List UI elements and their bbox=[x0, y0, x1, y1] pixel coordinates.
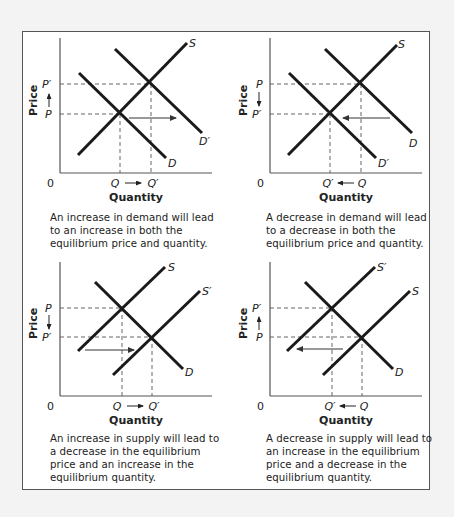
price-label-upper: P′ bbox=[252, 302, 262, 315]
panel-demand-increase: S D′ D P′ P Price 0 Q Q′ Quantity bbox=[27, 37, 212, 204]
supply-curve-s bbox=[78, 43, 187, 155]
price-label-upper: P′ bbox=[42, 78, 52, 91]
supply-curve-s bbox=[288, 45, 397, 155]
y-axis-title: Price bbox=[237, 308, 250, 339]
curve-label-s: S bbox=[168, 261, 175, 274]
curve-label-s: S bbox=[189, 37, 196, 50]
qty-label-right: Q′ bbox=[148, 400, 160, 413]
origin-label: 0 bbox=[47, 177, 54, 190]
y-axis-title: Price bbox=[27, 85, 40, 116]
qty-label-left: Q′ bbox=[324, 400, 336, 413]
price-label-upper: P bbox=[45, 302, 52, 315]
qty-label-left: Q bbox=[113, 400, 122, 413]
panel-supply-decrease: S′ S D P′ P Price 0 Q′ Q Quantity bbox=[237, 261, 422, 427]
y-axis-title: Price bbox=[27, 308, 40, 339]
curve-label-d: D bbox=[395, 366, 403, 379]
caption-supply-decrease: A decrease in supply will lead to an inc… bbox=[266, 432, 446, 484]
curve-label-s-prime: S′ bbox=[377, 261, 387, 274]
qty-label-right: Q′ bbox=[147, 177, 159, 190]
curve-label-d-prime: D′ bbox=[378, 157, 389, 170]
curve-label-d-prime: D′ bbox=[199, 135, 210, 148]
price-label-upper: P bbox=[256, 78, 263, 91]
curve-label-s: S bbox=[412, 285, 419, 298]
price-label-lower: P bbox=[256, 331, 263, 344]
curve-label-d: D bbox=[185, 366, 193, 379]
demand-curve-d bbox=[305, 282, 393, 369]
price-label-lower: P bbox=[45, 108, 52, 121]
panel-demand-decrease: S D D′ P P′ Price 0 Q′ Q Quantity bbox=[237, 38, 422, 204]
demand-curve-d bbox=[95, 282, 183, 369]
caption-demand-increase: An increase in demand will lead to an in… bbox=[50, 211, 230, 250]
qty-label-right: Q bbox=[360, 400, 369, 413]
x-axis-title: Quantity bbox=[319, 414, 373, 427]
price-label-lower: P′ bbox=[252, 108, 262, 121]
caption-demand-decrease: A decrease in demand will lead to a decr… bbox=[266, 211, 446, 250]
caption-supply-increase: An increase in supply will lead to a dec… bbox=[50, 432, 230, 484]
x-axis-title: Quantity bbox=[109, 191, 163, 204]
curve-label-s: S bbox=[398, 38, 405, 51]
qty-label-left: Q bbox=[111, 177, 120, 190]
price-label-lower: P′ bbox=[42, 331, 52, 344]
qty-label-left: Q′ bbox=[322, 177, 334, 190]
x-axis-title: Quantity bbox=[319, 191, 373, 204]
qty-label-right: Q bbox=[358, 177, 367, 190]
curve-label-d: D bbox=[409, 137, 417, 150]
origin-label: 0 bbox=[257, 177, 264, 190]
panel-supply-increase: S S′ D P P′ Price 0 Q Q′ Quantity bbox=[27, 261, 212, 427]
curve-label-d: D bbox=[168, 157, 176, 170]
y-axis-title: Price bbox=[237, 85, 250, 116]
x-axis-title: Quantity bbox=[109, 414, 163, 427]
origin-label: 0 bbox=[257, 400, 264, 413]
origin-label: 0 bbox=[47, 400, 54, 413]
curve-label-s-prime: S′ bbox=[202, 285, 212, 298]
